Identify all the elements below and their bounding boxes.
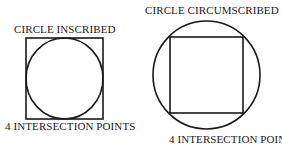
- circle-outline-inscribed: [26, 38, 103, 119]
- square-outline-circumscribed-panel: [170, 37, 243, 113]
- diagram-circle-circumscribed-about-square: [141, 0, 282, 152]
- panel-circle-circumscribed: CIRCLE CIRCUMSCRIBED 4 INTERSECTION POIN…: [141, 0, 282, 152]
- caption-intersection-points-inscribed: 4 INTERSECTION POINTS: [5, 120, 135, 132]
- panel-circle-inscribed: CIRCLE INSCRIBED 4 INTERSECTION POINTS: [0, 0, 141, 152]
- caption-intersection-points-circumscribed: 4 INTERSECTION POINTS: [169, 133, 282, 145]
- geometry-figure: CIRCLE INSCRIBED 4 INTERSECTION POINTS C…: [0, 0, 282, 152]
